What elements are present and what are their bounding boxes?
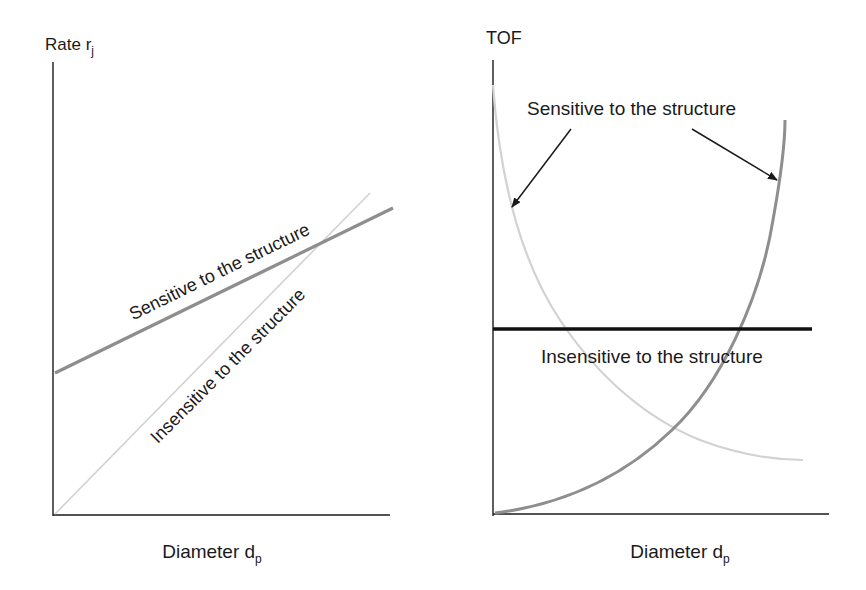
- arrow-to-decreasing-curve: [512, 129, 571, 207]
- right-x-axis-label: Diameter dp: [630, 541, 730, 566]
- left-x-axis-label: Diameter dp: [162, 541, 262, 566]
- left-y-axis-label: Rate rj: [45, 35, 94, 58]
- left-y-axis-label-sub: j: [90, 44, 94, 58]
- left-sensitive-line: [55, 208, 393, 373]
- right-y-axis-label: TOF: [486, 28, 522, 48]
- left-chart: Rate rj Sensitive to the structure Insen…: [45, 35, 393, 566]
- right-chart: TOF Sensitive to the structure Insensiti…: [486, 28, 829, 566]
- right-insensitive-label: Insensitive to the structure: [541, 346, 763, 367]
- left-insensitive-label: Insensitive to the structure: [146, 284, 309, 447]
- left-x-axis-label-main: Diameter d: [162, 541, 255, 562]
- right-increasing-sensitive-curve: [495, 120, 785, 513]
- right-x-axis-label-sub: p: [723, 552, 730, 566]
- right-x-axis-label-main: Diameter d: [630, 541, 723, 562]
- left-x-axis-label-sub: p: [255, 552, 262, 566]
- arrow-to-increasing-curve: [692, 129, 777, 180]
- right-decreasing-sensitive-curve: [493, 85, 803, 460]
- right-sensitive-label: Sensitive to the structure: [527, 98, 736, 119]
- left-y-axis-label-main: Rate r: [45, 35, 92, 54]
- figure: Rate rj Sensitive to the structure Insen…: [0, 0, 866, 590]
